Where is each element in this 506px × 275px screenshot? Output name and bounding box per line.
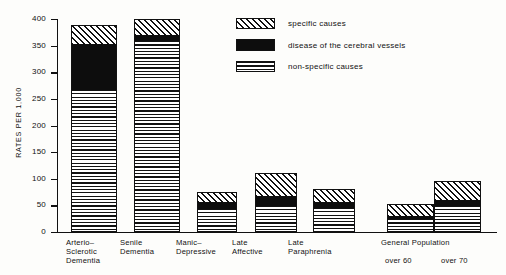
x-axis-label-line: Sclerotic [66,247,100,256]
x-axis-sub-label: over 70 [441,256,468,265]
bar-segment [135,41,179,231]
bar-segment [198,202,236,209]
stacked-bar-chart: RATES PER 1,000 400350300250200150100500… [0,0,506,275]
x-axis-label-line: Affective [232,247,263,256]
bar-segment [314,208,354,231]
x-axis-label-line: Depressive [176,247,216,256]
bar-late-paraphrenia [313,189,355,232]
legend-label: specific causes [288,19,346,28]
bar-segment [388,219,433,231]
x-axis-sub-label: over 60 [385,256,412,265]
chart-legend: specific causes disease of the cerebral … [236,17,406,82]
bar-segment [314,190,354,201]
bar-segment [256,196,296,206]
x-axis-label-line: Arterio– [66,238,100,247]
y-tick-label: 200 [0,121,46,130]
y-tick-label: 300 [0,67,46,76]
x-axis-label: Arterio–ScleroticDementia [66,238,100,266]
x-axis-label-line: Late [288,238,332,247]
x-axis-label-line: Senile [120,238,154,247]
x-axis-group-label: General Population [381,238,450,247]
x-axis-label: SenileDementia [120,238,154,256]
bar-general-population-over-70 [434,181,481,232]
legend-item: disease of the cerebral vessels [236,39,406,52]
legend-item: non-specific causes [236,60,406,73]
x-axis-line [57,232,497,233]
legend-item: specific causes [236,17,406,30]
y-tick-label: 50 [0,200,46,209]
bar-segment [198,209,236,231]
legend-swatch-specific-causes [236,18,275,30]
bar-segment [72,26,116,43]
y-tick [51,232,58,233]
bar-segment [435,206,480,231]
bar-segment [388,205,433,215]
bar-late-affective [255,173,297,232]
x-axis-label-line: Dementia [120,247,154,256]
bar-segment [72,44,116,90]
x-axis-label-line: Manic– [176,238,216,247]
legend-swatch-cerebral-vessels [236,39,275,51]
bar-segment [72,90,116,231]
y-tick-label: 250 [0,94,46,103]
bar-segment [435,182,480,200]
y-tick-label: 400 [0,14,46,23]
y-tick-label: 100 [0,174,46,183]
y-tick-label: 0 [0,227,46,236]
x-axis-label: Manic–Depressive [176,238,216,256]
x-axis-label-line: Late [232,238,263,247]
bar-arterio-sclerotic-dementia [71,25,117,232]
legend-swatch-non-specific-causes [236,61,275,73]
bar-segment [256,174,296,196]
x-axis-label: LateAffective [232,238,263,256]
y-tick-label: 350 [0,41,46,50]
x-axis-label-line: Paraphrenia [288,247,332,256]
bar-segment [256,206,296,231]
legend-label: disease of the cerebral vessels [288,41,406,50]
x-axis-label: LateParaphrenia [288,238,332,256]
x-axis-label-line: Dementia [66,256,100,265]
bar-segment [135,20,179,35]
bar-general-population-over-60 [387,204,434,232]
bar-manic-depressive [197,192,237,232]
y-tick-label: 150 [0,147,46,156]
legend-label: non-specific causes [288,62,363,71]
bar-senile-dementia [134,19,180,232]
bar-segment [198,193,236,202]
